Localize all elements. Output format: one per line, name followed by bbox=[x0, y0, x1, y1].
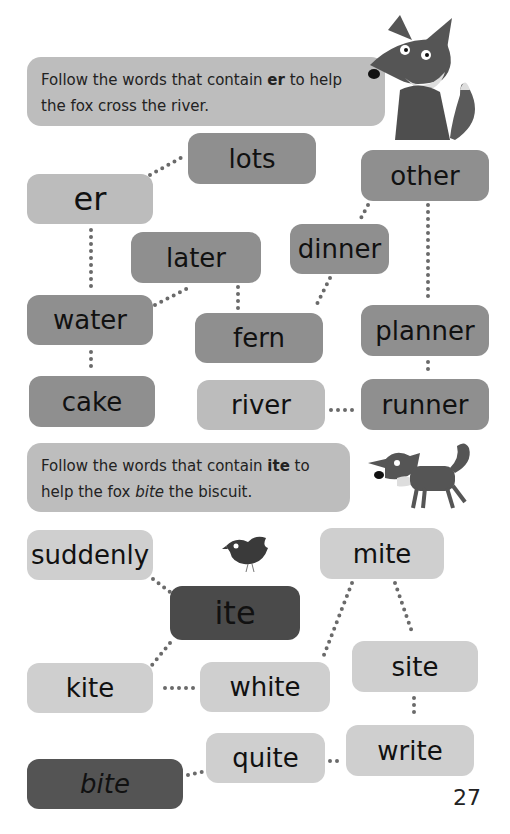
word-label: er bbox=[74, 180, 107, 218]
word-label: bite bbox=[80, 769, 130, 799]
word-box-kite[interactable]: kite bbox=[27, 663, 153, 713]
word-label: white bbox=[229, 672, 300, 702]
word-label: water bbox=[53, 305, 127, 335]
bird-illustration bbox=[222, 532, 274, 574]
word-box-er-start[interactable]: er bbox=[27, 174, 153, 224]
instruction-key-bite: bite bbox=[135, 483, 164, 501]
word-box-site[interactable]: site bbox=[352, 641, 478, 692]
word-label: mite bbox=[353, 539, 412, 569]
word-label: lots bbox=[229, 144, 276, 174]
word-label: cake bbox=[62, 387, 122, 417]
word-label: site bbox=[392, 652, 439, 682]
instruction-text-end: the biscuit. bbox=[164, 483, 252, 501]
word-label: quite bbox=[232, 743, 298, 773]
word-box-lots[interactable]: lots bbox=[188, 133, 316, 184]
word-box-write[interactable]: write bbox=[346, 725, 474, 776]
word-label: fern bbox=[233, 323, 285, 353]
instruction-banner-er: Follow the words that contain er to help… bbox=[27, 57, 385, 126]
word-label: river bbox=[231, 390, 291, 420]
instruction-key: er bbox=[267, 71, 285, 89]
word-label: kite bbox=[66, 673, 114, 703]
word-label: suddenly bbox=[31, 540, 149, 570]
word-box-dinner[interactable]: dinner bbox=[290, 224, 389, 274]
word-box-planner[interactable]: planner bbox=[361, 305, 489, 356]
word-box-fern[interactable]: fern bbox=[195, 313, 323, 363]
word-box-other[interactable]: other bbox=[361, 150, 489, 201]
word-box-river-end[interactable]: river bbox=[197, 380, 325, 430]
sitting-fox-illustration bbox=[360, 10, 480, 145]
word-box-runner[interactable]: runner bbox=[361, 379, 489, 430]
word-label: later bbox=[166, 243, 226, 273]
page-number: 27 bbox=[453, 785, 481, 810]
instruction-banner-ite: Follow the words that contain ite to hel… bbox=[27, 443, 350, 512]
walking-fox-illustration bbox=[365, 438, 475, 513]
word-label: planner bbox=[375, 316, 474, 346]
word-box-bite-end[interactable]: bite bbox=[27, 759, 183, 809]
word-box-cake[interactable]: cake bbox=[29, 376, 155, 427]
word-label: ite bbox=[214, 594, 255, 632]
word-box-white[interactable]: white bbox=[200, 662, 330, 712]
instruction-text: Follow the words that contain bbox=[41, 71, 267, 89]
word-label: runner bbox=[382, 390, 469, 420]
word-label: other bbox=[390, 161, 459, 191]
instruction-text: Follow the words that contain bbox=[41, 457, 267, 475]
word-box-later[interactable]: later bbox=[131, 232, 261, 283]
instruction-key: ite bbox=[267, 457, 290, 475]
word-label: dinner bbox=[298, 234, 381, 264]
word-box-water[interactable]: water bbox=[27, 295, 153, 345]
word-label: write bbox=[377, 736, 442, 766]
word-box-suddenly[interactable]: suddenly bbox=[27, 530, 153, 580]
word-box-quite[interactable]: quite bbox=[206, 733, 325, 783]
word-box-mite[interactable]: mite bbox=[320, 528, 444, 579]
word-box-ite-start[interactable]: ite bbox=[170, 586, 300, 640]
